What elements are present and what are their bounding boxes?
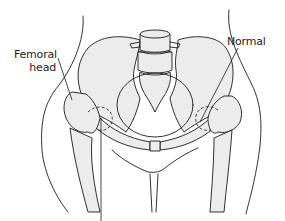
femoral-head-label-line1: Femoral	[14, 48, 56, 61]
normal-label: Normal	[227, 35, 266, 48]
pelvis-hip-illustration: Femoral head Normal	[0, 0, 285, 221]
inner-thigh-left	[150, 174, 152, 212]
ischial-arch	[112, 148, 198, 172]
femoral-head-label-line2: head	[14, 61, 56, 74]
lumbar-vertebra-lower	[138, 52, 172, 73]
vertebral-disc-top	[140, 30, 170, 38]
femoral-head-label: Femoral head	[14, 48, 56, 74]
left-femur-shaft	[70, 128, 100, 212]
femoral-head-leader	[58, 58, 72, 100]
pubic-symphysis	[150, 141, 160, 151]
sacrum	[139, 72, 170, 112]
inner-thigh-right	[156, 174, 158, 212]
right-femur-shaft	[210, 130, 232, 212]
pelvis-drawing	[0, 0, 285, 221]
